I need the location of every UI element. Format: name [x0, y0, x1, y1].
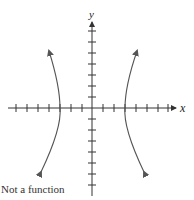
graph: x y — [0, 0, 194, 200]
y-axis-label: y — [88, 8, 94, 20]
left-branch-curve — [41, 51, 60, 172]
x-axis-label: x — [179, 101, 186, 115]
caption: Not a function — [1, 183, 65, 195]
right-branch-curve — [125, 51, 144, 172]
y-axis — [88, 22, 96, 196]
